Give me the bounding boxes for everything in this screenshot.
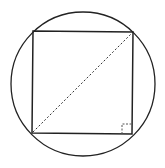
right-angle-marker [122,124,132,134]
inscribed-square-diagram [0,0,165,168]
diagonal-dashed [33,33,132,132]
